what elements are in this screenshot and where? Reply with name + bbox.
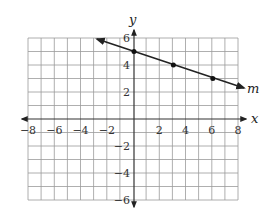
line-m: [97, 39, 244, 88]
x-axis-label: x: [251, 111, 259, 126]
svg-text:4: 4: [182, 124, 189, 137]
svg-text:6: 6: [208, 124, 215, 137]
svg-text:4: 4: [123, 59, 130, 72]
svg-text:6: 6: [123, 32, 130, 45]
y-axis-label: y: [128, 12, 137, 27]
svg-text:2: 2: [156, 124, 163, 137]
svg-text:−4: −4: [114, 167, 130, 180]
point-3-4: [171, 63, 176, 68]
svg-text:−8: −8: [20, 124, 36, 137]
coordinate-plane: x y −8 −6 −4 −2 2 4 6 8 6 4 2 −2 −4 −6 m: [0, 0, 274, 223]
svg-text:−6: −6: [114, 194, 130, 207]
line-m-label: m: [247, 81, 259, 96]
point-0-5: [132, 49, 137, 54]
point-6-3: [210, 76, 215, 81]
svg-text:−2: −2: [114, 140, 130, 153]
svg-text:−4: −4: [72, 124, 88, 137]
x-tick-labels: −8 −6 −4 −2 2 4 6 8: [20, 124, 242, 137]
svg-text:2: 2: [123, 86, 130, 99]
svg-text:−2: −2: [99, 124, 115, 137]
svg-text:−6: −6: [46, 124, 62, 137]
svg-text:8: 8: [235, 124, 242, 137]
